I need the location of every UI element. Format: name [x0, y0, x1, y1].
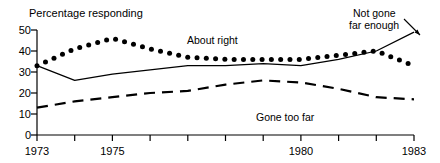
- series-point: [60, 52, 65, 57]
- series-label-not-gone-far-enough-line2: far enough: [349, 19, 399, 31]
- series-point: [131, 42, 136, 47]
- series-point: [306, 56, 311, 61]
- series-point: [185, 55, 190, 60]
- series-point: [149, 47, 154, 52]
- series-point: [113, 37, 118, 42]
- series-point: [51, 56, 56, 61]
- series-point: [140, 44, 145, 49]
- series-point: [241, 57, 246, 62]
- chart-figure: Percentage responding 50 40 30 20 10 0: [0, 0, 440, 163]
- series-point: [122, 39, 127, 44]
- series-point: [77, 45, 82, 50]
- series-point: [222, 57, 227, 62]
- y-tick-label-0: 0: [25, 129, 31, 141]
- series-point: [397, 58, 402, 63]
- x-tick-label-1973: 1973: [25, 145, 49, 157]
- series-point: [380, 51, 385, 56]
- series-point: [95, 40, 100, 45]
- y-tick-label-30: 30: [19, 66, 31, 78]
- series-point: [287, 57, 292, 62]
- series-point: [68, 48, 73, 53]
- y-tick-label-20: 20: [19, 87, 31, 99]
- series-point: [278, 57, 283, 62]
- series-point: [43, 59, 48, 64]
- x-tick-label-1983: 1983: [402, 145, 426, 157]
- series-point: [158, 49, 163, 54]
- series-label-gone-too-far: Gone too far: [256, 111, 315, 123]
- series-point: [232, 57, 237, 62]
- series-point: [297, 57, 302, 62]
- series-point: [86, 43, 91, 48]
- x-axis-ticks: [37, 135, 414, 141]
- series-point: [260, 57, 265, 62]
- series-label-about-right: About right: [187, 34, 238, 46]
- series-point: [213, 56, 218, 61]
- y-tick-label-50: 50: [19, 24, 31, 36]
- series-point: [315, 55, 320, 60]
- series-point: [406, 61, 411, 66]
- series-point: [334, 53, 339, 58]
- series-gone-too-far: [37, 80, 414, 107]
- series-point: [388, 54, 393, 59]
- x-tick-label-1980: 1980: [289, 145, 313, 157]
- series-point: [269, 57, 274, 62]
- series-point: [176, 53, 181, 58]
- series-point: [167, 51, 172, 56]
- series-point: [325, 54, 330, 59]
- series-point: [104, 38, 109, 43]
- series-point: [250, 57, 255, 62]
- y-tick-label-40: 40: [19, 45, 31, 57]
- y-axis-title: Percentage responding: [29, 7, 143, 19]
- series-point: [195, 55, 200, 60]
- percentage-responding-line-chart: Percentage responding 50 40 30 20 10 0: [0, 0, 440, 163]
- series-point: [204, 56, 209, 61]
- series-label-not-gone-far-enough-line1: Not gone: [353, 7, 396, 19]
- y-tick-label-10: 10: [19, 108, 31, 120]
- series-point: [343, 52, 348, 57]
- x-tick-label-1975: 1975: [100, 145, 124, 157]
